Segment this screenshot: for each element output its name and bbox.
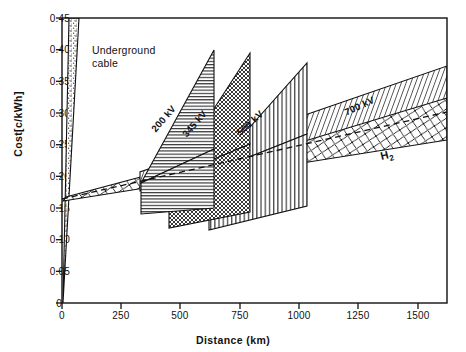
plot-area (0, 0, 466, 352)
annotation-h2-text: H2 (379, 147, 394, 162)
annotation-underground-cable: Underground cable (92, 44, 172, 69)
series-underground-cable (63, 18, 79, 303)
chart-figure: 0.45 0.40 0.35 0.30 0.25 0.20 0.15 0.10 … (0, 0, 466, 352)
y-axis-ticks (56, 18, 62, 303)
x-axis-ticks (62, 303, 418, 309)
